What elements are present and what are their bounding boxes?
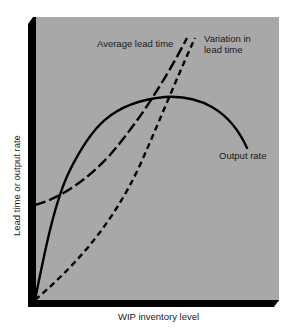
chart: Average lead time Variation in lead time…: [0, 0, 292, 330]
avg-lead-time-label: Average lead time: [97, 38, 173, 49]
variation-label-line1: Variation in: [204, 33, 251, 44]
chart-canvas: [0, 0, 292, 330]
variation-label-line2: lead time: [204, 44, 243, 55]
output-rate-label: Output rate: [219, 150, 267, 161]
x-axis-label: WIP inventory level: [118, 311, 199, 322]
y-axis-bar: [28, 17, 33, 307]
y-axis-line: [33, 17, 36, 302]
y-axis-label: Lead time or output rate: [11, 135, 22, 236]
x-axis-bar: [28, 300, 279, 307]
